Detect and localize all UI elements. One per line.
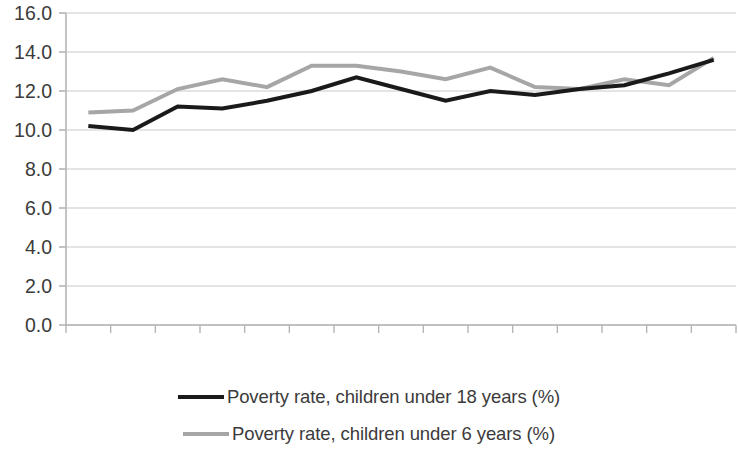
y-tick-label: 0.0 (25, 314, 52, 336)
y-tick-label: 6.0 (25, 197, 52, 219)
y-tick-label: 10.0 (14, 119, 52, 141)
legend-swatch-under-18 (178, 395, 224, 399)
legend-label-under-18: Poverty rate, children under 18 years (%… (227, 386, 560, 408)
line-chart: 0.02.04.06.08.010.012.014.016.0 20042005… (0, 0, 738, 452)
data-series-group (88, 58, 713, 130)
plot-area: 0.02.04.06.08.010.012.014.016.0 20042005… (0, 0, 738, 340)
gridlines (66, 13, 736, 325)
legend-item-under-6: Poverty rate, children under 6 years (%) (0, 415, 738, 452)
y-tick-label: 2.0 (25, 275, 52, 297)
y-tick-label: 4.0 (25, 236, 52, 258)
y-tick-label: 16.0 (14, 2, 52, 24)
legend-swatch-under-6 (183, 432, 229, 436)
y-tick-label: 14.0 (14, 41, 52, 63)
y-axis-ticks (59, 13, 66, 325)
x-axis-ticks (66, 325, 736, 333)
y-tick-label: 8.0 (25, 158, 52, 180)
chart-legend: Poverty rate, children under 18 years (%… (0, 378, 738, 452)
y-axis-tick-labels: 0.02.04.06.08.010.012.014.016.0 (14, 2, 52, 336)
legend-label-under-6: Poverty rate, children under 6 years (%) (232, 423, 555, 445)
legend-item-under-18: Poverty rate, children under 18 years (%… (0, 378, 738, 415)
chart-canvas: 0.02.04.06.08.010.012.014.016.0 20042005… (0, 0, 738, 340)
y-tick-label: 12.0 (14, 80, 52, 102)
